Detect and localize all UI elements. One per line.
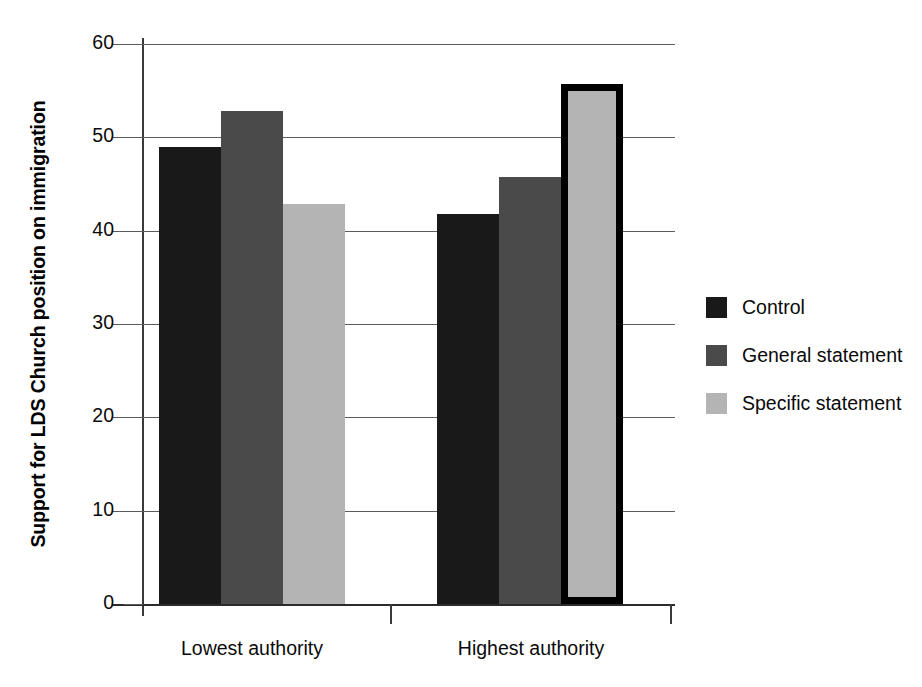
y-tick-10 (124, 511, 143, 512)
y-tick-60 (124, 44, 143, 45)
bar-chart-figure: Support for LDS Church position on immig… (0, 0, 922, 687)
y-axis-spine (142, 38, 144, 616)
legend-label-general-statement: General statement (742, 342, 902, 368)
x-tick-1 (670, 604, 672, 624)
y-tick-label-50: 50 (44, 126, 114, 146)
category-label-lowest-authority: Lowest authority (102, 637, 402, 660)
gridline-60 (112, 44, 675, 45)
gridline-0 (112, 604, 675, 606)
x-tick-0 (390, 604, 392, 624)
bar-highest-authority-specific-statement (561, 84, 623, 604)
bar-highest-authority-control (437, 214, 499, 604)
y-tick-label-10: 10 (44, 500, 114, 520)
category-label-highest-authority: Highest authority (381, 637, 681, 660)
y-tick-label-40: 40 (44, 220, 114, 240)
y-tick-50 (124, 137, 143, 138)
y-tick-label-30: 30 (44, 313, 114, 333)
y-tick-label-0: 0 (44, 593, 114, 613)
legend-label-specific-statement: Specific statement (742, 390, 901, 416)
legend-swatch-control-icon (706, 297, 727, 318)
y-tick-label-20: 20 (44, 406, 114, 426)
bar-lowest-authority-general-statement (221, 111, 283, 604)
y-tick-label-60: 60 (44, 33, 114, 53)
y-tick-30 (124, 324, 143, 325)
y-tick-0 (124, 604, 143, 605)
y-tick-20 (124, 417, 143, 418)
bar-lowest-authority-specific-statement (283, 204, 345, 604)
legend-swatch-specific-statement-icon (706, 393, 727, 414)
bar-lowest-authority-control (159, 147, 221, 604)
legend-swatch-general-statement-icon (706, 345, 727, 366)
legend-label-control: Control (742, 294, 805, 320)
y-tick-40 (124, 231, 143, 232)
bar-highest-authority-general-statement (499, 177, 561, 604)
plot-area: 0102030405060 (112, 44, 675, 604)
